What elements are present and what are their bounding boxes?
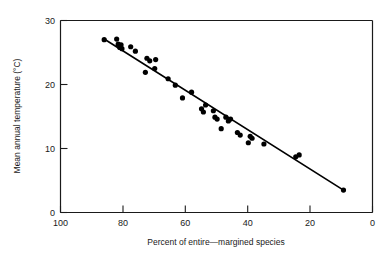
x-tick-label-0: 0 bbox=[370, 218, 375, 228]
chart-svg: 0 10 20 30 100 80 60 40 20 0 Percent of … bbox=[0, 0, 384, 258]
x-tick-label-60: 60 bbox=[180, 218, 190, 228]
data-point bbox=[228, 116, 233, 121]
data-point bbox=[238, 132, 243, 137]
data-point bbox=[102, 37, 107, 42]
x-tick-label-20: 20 bbox=[305, 218, 315, 228]
y-axis-ticks bbox=[61, 21, 68, 213]
data-point bbox=[246, 140, 251, 145]
data-point bbox=[128, 44, 133, 49]
data-point bbox=[189, 90, 194, 95]
data-point bbox=[119, 46, 124, 51]
x-axis-tick-labels: 100 80 60 40 20 0 bbox=[53, 218, 375, 228]
data-point bbox=[133, 49, 138, 54]
data-point bbox=[114, 36, 119, 41]
scatter-plot-figure: 0 10 20 30 100 80 60 40 20 0 Percent of … bbox=[0, 0, 384, 258]
data-point bbox=[153, 57, 158, 62]
data-point bbox=[143, 70, 148, 75]
y-axis-title: Mean annual temperature (°C) bbox=[12, 58, 22, 173]
data-point bbox=[147, 58, 152, 63]
y-tick-label-0: 0 bbox=[50, 208, 55, 218]
y-tick-label-20: 20 bbox=[45, 80, 55, 90]
data-point bbox=[180, 95, 185, 100]
data-point bbox=[166, 76, 171, 81]
data-point bbox=[211, 108, 216, 113]
data-point bbox=[152, 66, 157, 71]
data-point bbox=[173, 83, 178, 88]
y-tick-label-10: 10 bbox=[45, 144, 55, 154]
data-point bbox=[201, 109, 206, 114]
data-point bbox=[249, 136, 254, 141]
data-point bbox=[219, 126, 224, 131]
x-tick-label-40: 40 bbox=[243, 218, 253, 228]
data-point bbox=[341, 188, 346, 193]
data-point bbox=[261, 141, 266, 146]
x-axis-title: Percent of entire—margined species bbox=[147, 237, 285, 247]
data-point bbox=[203, 102, 208, 107]
y-tick-label-30: 30 bbox=[45, 16, 55, 26]
data-point bbox=[293, 154, 298, 159]
x-tick-label-100: 100 bbox=[53, 218, 68, 228]
data-point bbox=[215, 116, 220, 121]
y-axis-tick-labels: 0 10 20 30 bbox=[45, 16, 55, 218]
regression-line bbox=[104, 39, 343, 190]
x-axis-ticks bbox=[61, 206, 373, 213]
x-tick-label-80: 80 bbox=[118, 218, 128, 228]
